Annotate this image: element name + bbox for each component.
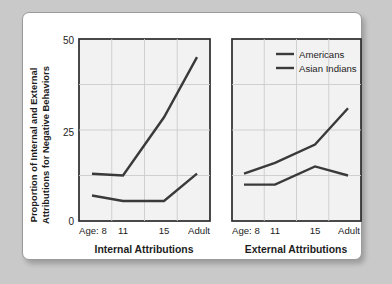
internal-xtick-age8: Age: 8 bbox=[79, 225, 107, 236]
y-axis-label-line2: Attributions for Negative Behaviors bbox=[40, 66, 51, 224]
external-xtick-age8: Age: 8 bbox=[232, 225, 260, 236]
external-x-tick-labels: Age: 8 11 15 Adult bbox=[232, 225, 360, 236]
external-xtick-11: 11 bbox=[270, 225, 280, 236]
external-xtick-15: 15 bbox=[310, 225, 321, 236]
external-xtick-adult: Adult bbox=[338, 225, 360, 236]
internal-xtick-adult: Adult bbox=[188, 225, 210, 236]
panel-internal-attributions: Age: 8 11 15 Adult Internal Attributions bbox=[79, 39, 210, 255]
two-panel-line-chart: Proportion of Internal and External Attr… bbox=[23, 13, 363, 261]
chart-card: Proportion of Internal and External Attr… bbox=[22, 12, 362, 260]
legend-label-asian-indians: Asian Indians bbox=[299, 63, 357, 74]
internal-panel-title: Internal Attributions bbox=[95, 244, 194, 255]
internal-xtick-11: 11 bbox=[118, 225, 128, 236]
external-panel-title: External Attributions bbox=[245, 244, 348, 255]
y-tick-25: 25 bbox=[63, 127, 75, 138]
y-tick-50: 50 bbox=[63, 35, 75, 46]
y-axis-ticks: 50 25 0 bbox=[63, 35, 75, 227]
y-axis-label: Proportion of Internal and External Attr… bbox=[28, 66, 51, 224]
figure-canvas: Proportion of Internal and External Attr… bbox=[0, 0, 392, 284]
y-axis-label-line1: Proportion of Internal and External bbox=[28, 68, 39, 223]
y-tick-0: 0 bbox=[68, 216, 74, 227]
internal-x-tick-labels: Age: 8 11 15 Adult bbox=[79, 225, 210, 236]
legend-label-americans: Americans bbox=[299, 49, 345, 60]
panel-external-attributions: Americans Asian Indians Age: 8 11 15 Adu… bbox=[232, 39, 361, 255]
chart-plot-area: Proportion of Internal and External Attr… bbox=[23, 13, 363, 261]
internal-xtick-15: 15 bbox=[159, 225, 170, 236]
